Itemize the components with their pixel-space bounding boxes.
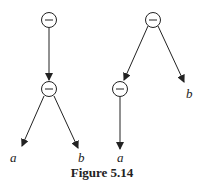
- leaf-label-a: a: [10, 150, 17, 165]
- edge-child-b: [54, 96, 78, 148]
- left-tree: a b: [10, 13, 85, 166]
- edge-child-a: [22, 96, 44, 146]
- right-tree: a b: [113, 13, 194, 166]
- leaf-label-b: b: [78, 150, 85, 165]
- leaf-label-b: b: [186, 86, 193, 101]
- figure-caption: Figure 5.14: [71, 165, 134, 180]
- leaf-label-a: a: [117, 150, 124, 165]
- edge-root-child: [124, 26, 148, 80]
- expression-tree-diagram: a b a b Figure 5.14: [0, 0, 203, 189]
- edge-root-b: [158, 26, 184, 82]
